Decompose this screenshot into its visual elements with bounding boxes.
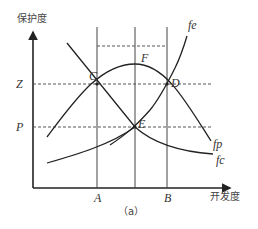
point-label-d: D [171, 77, 180, 89]
curve-label-fp: fp [213, 138, 222, 150]
point-label-c: C [89, 70, 97, 82]
curve-fc-left [47, 127, 135, 163]
curve-label-fc: fc [216, 154, 225, 166]
curve-label-fe: fe [188, 19, 197, 31]
x-axis-label: 开发度 [210, 192, 240, 202]
curve-fe-right [110, 36, 187, 145]
point-e-dot [133, 125, 136, 128]
point-d-dot [165, 82, 168, 85]
point-label-e: E [138, 118, 145, 130]
point-label-f: F [141, 52, 148, 64]
tick-label-b: B [164, 192, 171, 204]
curve-fe-line [47, 84, 97, 137]
tick-label-z: Z [16, 78, 23, 90]
curve-fp [47, 64, 211, 141]
tick-label-p: P [16, 121, 23, 133]
figure-caption: （a） [118, 207, 144, 217]
curve-fc [67, 43, 213, 154]
tick-label-a: A [94, 192, 101, 204]
y-axis-label: 保护度 [17, 14, 47, 24]
